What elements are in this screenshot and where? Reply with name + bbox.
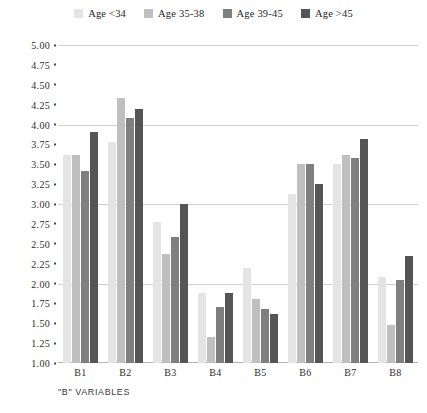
y-axis-tick-marker	[54, 283, 56, 285]
y-axis-tick: 5.00	[31, 40, 58, 51]
legend-item-label: Age 35-38	[158, 8, 204, 19]
x-axis-tick-label: B2	[103, 367, 148, 378]
y-axis-tick: 1.25	[31, 338, 58, 349]
bar	[117, 98, 125, 363]
y-axis-tick-label: 4.25	[31, 99, 50, 110]
y-axis-tick: 2.25	[31, 258, 58, 269]
bar	[261, 309, 269, 363]
bar-group	[373, 45, 418, 363]
bar	[396, 280, 404, 363]
x-axis-tick-label: B4	[193, 367, 238, 378]
y-axis-tick-label: 2.75	[31, 218, 50, 229]
bar	[360, 139, 368, 363]
bar	[288, 194, 296, 363]
y-axis-tick: 1.00	[31, 358, 58, 369]
bar-group	[193, 45, 238, 363]
bar	[243, 268, 251, 363]
y-axis-tick-marker	[54, 322, 56, 324]
x-axis-tick-label: B1	[58, 367, 103, 378]
bar-chart: 5.004.754.504.254.003.753.503.253.002.75…	[0, 36, 427, 413]
bar	[63, 155, 71, 363]
y-axis-tick-marker	[54, 84, 56, 86]
y-axis-tick-label: 4.75	[31, 59, 50, 70]
y-axis-tick-marker	[54, 203, 56, 205]
bar	[405, 256, 413, 363]
chart-legend: Age <34Age 35-38Age 39-45Age >45	[0, 4, 427, 22]
y-axis-tick-label: 3.25	[31, 179, 50, 190]
x-axis-tick-label: B6	[283, 367, 328, 378]
bar	[72, 155, 80, 363]
y-axis-tick: 3.50	[31, 159, 58, 170]
bar	[198, 293, 206, 363]
legend-item-label: Age >45	[315, 8, 353, 19]
bar	[90, 132, 98, 363]
y-axis-tick: 3.00	[31, 199, 58, 210]
bar	[207, 337, 215, 363]
y-axis-tick-marker	[54, 302, 56, 304]
y-axis-tick-marker	[54, 64, 56, 66]
bar	[126, 118, 134, 363]
bar	[315, 184, 323, 363]
bar-group	[328, 45, 373, 363]
bar-group	[103, 45, 148, 363]
x-axis-title: "B" VARIABLES	[58, 387, 130, 397]
bar	[333, 164, 341, 363]
bar	[297, 164, 305, 363]
bar	[180, 204, 188, 363]
y-axis-tick-label: 4.00	[31, 119, 50, 130]
y-axis-tick-label: 4.50	[31, 79, 50, 90]
legend-swatch-icon	[74, 9, 83, 18]
legend-item: Age 35-38	[144, 8, 204, 19]
y-axis-tick: 3.25	[31, 179, 58, 190]
y-axis-tick: 3.75	[31, 139, 58, 150]
y-axis-tick-marker	[54, 183, 56, 185]
x-axis-tick-label: B5	[238, 367, 283, 378]
y-axis-tick-label: 3.50	[31, 159, 50, 170]
legend-item: Age >45	[301, 8, 353, 19]
y-axis-tick-marker	[54, 362, 56, 364]
legend-swatch-icon	[223, 9, 232, 18]
y-axis-tick: 4.25	[31, 99, 58, 110]
y-axis-tick-marker	[54, 104, 56, 106]
y-axis-tick-label: 5.00	[31, 40, 50, 51]
y-axis-tick-marker	[54, 163, 56, 165]
y-axis-tick-label: 1.00	[31, 358, 50, 369]
bar	[135, 109, 143, 363]
y-axis-tick: 4.00	[31, 119, 58, 130]
x-axis-tick-label: B7	[328, 367, 373, 378]
bar-group	[148, 45, 193, 363]
bar	[351, 158, 359, 363]
legend-item: Age <34	[74, 8, 126, 19]
bar	[153, 222, 161, 364]
bar	[81, 171, 89, 363]
x-axis-tick-label: B3	[148, 367, 193, 378]
y-axis-tick-marker	[54, 263, 56, 265]
y-axis-tick-marker	[54, 223, 56, 225]
y-axis-tick-marker	[54, 143, 56, 145]
bar	[306, 164, 314, 363]
bar-group	[238, 45, 283, 363]
y-axis-tick: 2.50	[31, 238, 58, 249]
legend-item-label: Age <34	[88, 8, 126, 19]
x-axis: B1B2B3B4B5B6B7B8	[58, 367, 418, 378]
y-axis-tick-marker	[54, 44, 56, 46]
bar	[216, 307, 224, 363]
bar	[252, 299, 260, 363]
y-axis-tick-label: 1.75	[31, 298, 50, 309]
bar-group	[58, 45, 103, 363]
y-axis-tick: 2.75	[31, 218, 58, 229]
y-axis-tick: 4.75	[31, 59, 58, 70]
y-axis-tick-marker	[54, 243, 56, 245]
legend-swatch-icon	[144, 9, 153, 18]
legend-item-label: Age 39-45	[237, 8, 283, 19]
bar	[225, 293, 233, 363]
bar	[270, 314, 278, 363]
y-axis-tick-label: 1.25	[31, 338, 50, 349]
bar-groups	[58, 45, 418, 363]
legend-item: Age 39-45	[223, 8, 283, 19]
y-axis: 5.004.754.504.254.003.753.503.253.002.75…	[0, 45, 58, 363]
bar	[342, 155, 350, 363]
y-axis-tick-label: 3.00	[31, 199, 50, 210]
legend-swatch-icon	[301, 9, 310, 18]
bar	[162, 254, 170, 363]
